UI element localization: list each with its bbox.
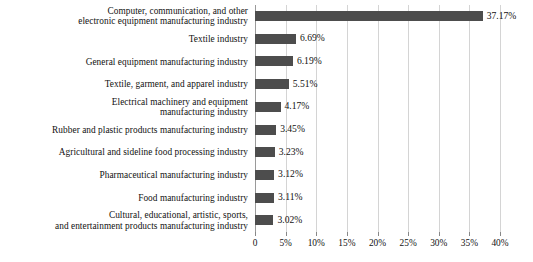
- category-label-line: electronic equipment manufacturing indus…: [0, 16, 248, 27]
- bar-value-label: 37.17%: [487, 8, 517, 24]
- x-tick-label: 40%: [491, 237, 508, 249]
- bar: [255, 215, 273, 225]
- x-tick-label: 15%: [338, 237, 355, 249]
- x-tick-label: 35%: [461, 237, 478, 249]
- x-tick-label: 25%: [400, 237, 417, 249]
- category-label: Pharmaceutical manufacturing industry: [0, 170, 248, 181]
- bar-row: 6.19%: [255, 50, 501, 73]
- category-label: Rubber and plastic products manufacturin…: [0, 125, 248, 136]
- bar-value-label: 3.45%: [280, 121, 305, 137]
- category-label: General equipment manufacturing industry: [0, 57, 248, 68]
- bar: [255, 193, 274, 203]
- tick-mark: [408, 232, 409, 236]
- bar-row: 37.17%: [255, 5, 501, 28]
- bar-value-label: 5.51%: [293, 76, 318, 92]
- bar-value-label: 4.17%: [285, 98, 310, 114]
- category-label-line: Textile industry: [0, 34, 248, 45]
- category-label-line: Food manufacturing industry: [0, 193, 248, 204]
- x-tick-label: 30%: [430, 237, 447, 249]
- bar-value-label: 6.19%: [297, 53, 322, 69]
- tick-mark: [286, 232, 287, 236]
- horizontal-bar-chart: Computer, communication, and otherelectr…: [0, 0, 533, 262]
- bar: [255, 125, 276, 135]
- bar: [255, 34, 296, 44]
- x-axis-ticks: 05%10%15%20%25%30%35%40%: [255, 232, 501, 254]
- tick-mark: [378, 232, 379, 236]
- category-label-line: manufacturing industry: [0, 107, 248, 118]
- bar-row: 5.51%: [255, 73, 501, 96]
- x-tick-label: 5%: [279, 237, 292, 249]
- category-label-line: General equipment manufacturing industry: [0, 57, 248, 68]
- category-label: Agricultural and sideline food processin…: [0, 147, 248, 158]
- category-axis-labels: Computer, communication, and otherelectr…: [0, 5, 252, 232]
- x-tick-label: 10%: [308, 237, 325, 249]
- bar: [255, 147, 275, 157]
- bar-row: 3.11%: [255, 187, 501, 210]
- bar: [255, 56, 293, 66]
- category-label: Computer, communication, and otherelectr…: [0, 6, 248, 27]
- tick-mark: [255, 232, 256, 236]
- bar: [255, 170, 274, 180]
- tick-mark: [316, 232, 317, 236]
- bar-value-label: 3.11%: [278, 189, 302, 205]
- category-label: Textile, garment, and apparel industry: [0, 79, 248, 90]
- bar-value-label: 6.69%: [300, 30, 325, 46]
- x-tick-label: 20%: [369, 237, 386, 249]
- category-label: Electrical machinery and equipmentmanufa…: [0, 97, 248, 118]
- x-tick-label: 0: [253, 237, 258, 249]
- category-label-line: Computer, communication, and other: [0, 6, 248, 17]
- category-label-line: Cultural, educational, artistic, sports,: [0, 210, 248, 221]
- bar-row: 4.17%: [255, 96, 501, 119]
- bar-value-label: 3.23%: [279, 144, 304, 160]
- bar-row: 3.45%: [255, 119, 501, 142]
- tick-mark: [469, 232, 470, 236]
- category-label-line: Pharmaceutical manufacturing industry: [0, 170, 248, 181]
- category-label: Cultural, educational, artistic, sports,…: [0, 210, 248, 231]
- bar-row: 3.12%: [255, 164, 501, 187]
- bar: [255, 79, 289, 89]
- tick-mark: [347, 232, 348, 236]
- bar: [255, 102, 281, 112]
- tick-mark: [500, 232, 501, 236]
- plot-area: 37.17%6.69%6.19%5.51%4.17%3.45%3.23%3.12…: [255, 5, 501, 232]
- category-label-line: Textile, garment, and apparel industry: [0, 79, 248, 90]
- category-label-line: Rubber and plastic products manufacturin…: [0, 125, 248, 136]
- bar-row: 6.69%: [255, 28, 501, 51]
- category-label-line: and entertainment products manufacturing…: [0, 221, 248, 232]
- tick-mark: [439, 232, 440, 236]
- bar-row: 3.23%: [255, 141, 501, 164]
- category-label: Food manufacturing industry: [0, 193, 248, 204]
- bar-value-label: 3.02%: [277, 212, 302, 228]
- bar: [255, 11, 483, 21]
- category-label: Textile industry: [0, 34, 248, 45]
- category-label-line: Agricultural and sideline food processin…: [0, 147, 248, 158]
- category-label-line: Electrical machinery and equipment: [0, 97, 248, 108]
- bar-value-label: 3.12%: [278, 166, 303, 182]
- bar-row: 3.02%: [255, 209, 501, 232]
